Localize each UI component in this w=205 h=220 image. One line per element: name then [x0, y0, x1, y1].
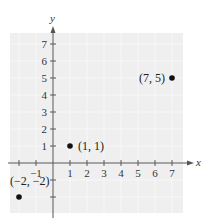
y-tick-label: 5 [42, 72, 48, 84]
x-tick-label: 3 [101, 167, 107, 179]
y-axis-arrow-icon [51, 26, 56, 33]
data-point [169, 75, 175, 81]
x-tick-label: 7 [169, 167, 175, 179]
point-label: (7, 5) [139, 71, 165, 85]
y-tick-label: 2 [42, 123, 48, 135]
x-tick-label: 1 [67, 167, 73, 179]
y-tick-label: 4 [42, 89, 48, 101]
x-axis-label: x [195, 156, 201, 168]
x-tick-label: 2 [84, 167, 90, 179]
coordinate-plane: −112345671234567 (−2, −2)(1, 1)(7, 5) x … [0, 0, 205, 220]
y-tick-label: 7 [42, 38, 48, 50]
x-tick-label: 4 [118, 167, 124, 179]
y-axis-label: y [49, 12, 55, 24]
point-label: (−2, −2) [10, 174, 50, 188]
data-point [67, 143, 73, 149]
point-label: (1, 1) [78, 139, 104, 153]
y-tick-label: 3 [42, 106, 48, 118]
data-point [16, 194, 22, 200]
y-tick-label: 1 [42, 140, 48, 152]
x-tick-label: 6 [152, 167, 158, 179]
x-tick-label: 5 [135, 167, 141, 179]
y-tick-label: 6 [42, 55, 48, 67]
x-axis-arrow-icon [187, 161, 194, 166]
